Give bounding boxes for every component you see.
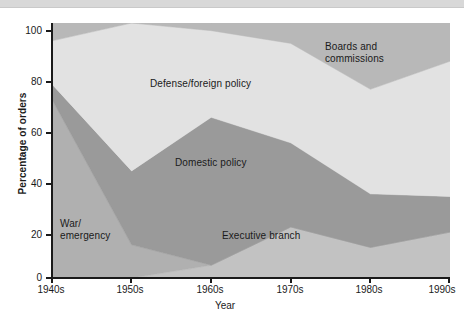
series-label-war-emergency: War/ emergency xyxy=(60,218,110,241)
y-tick-label-60: 60 xyxy=(16,128,42,138)
x-tick-mark-1990s xyxy=(448,278,450,283)
x-tick-label-1960s: 1960s xyxy=(188,284,232,295)
y-tick-label-20: 20 xyxy=(16,230,42,240)
y-axis-line xyxy=(51,23,53,279)
x-tick-label-1980s: 1980s xyxy=(347,284,391,295)
y-tick-label-40: 40 xyxy=(16,179,42,189)
stacked-area-chart-figure: Percentage of orders 100 80 60 40 20 0 1… xyxy=(0,8,464,317)
y-tick-label-100: 100 xyxy=(16,26,42,36)
y-tick-label-0: 0 xyxy=(16,273,42,283)
x-tick-mark-1950s xyxy=(130,278,132,283)
x-tick-mark-1980s xyxy=(369,278,371,283)
y-tick-label-80: 80 xyxy=(16,77,42,87)
y-axis-label: Percentage of orders xyxy=(17,64,28,224)
series-label-defense-foreign-policy: Defense/foreign policy xyxy=(150,78,251,90)
x-tick-label-1940s: 1940s xyxy=(29,284,73,295)
x-axis-label: Year xyxy=(150,300,300,311)
x-tick-label-1950s: 1950s xyxy=(108,284,152,295)
series-label-executive-branch: Executive branch xyxy=(222,230,300,242)
x-tick-mark-1940s xyxy=(51,278,53,283)
series-label-boards-and-commissions: Boards and commissions xyxy=(325,41,384,64)
x-axis-line xyxy=(51,277,450,279)
x-tick-label-1970s: 1970s xyxy=(268,284,312,295)
x-tick-label-1990s: 1990s xyxy=(420,284,464,295)
x-tick-mark-1970s xyxy=(290,278,292,283)
x-tick-mark-1960s xyxy=(210,278,212,283)
page-top-strip xyxy=(0,0,464,7)
series-label-domestic-policy: Domestic policy xyxy=(175,157,247,169)
